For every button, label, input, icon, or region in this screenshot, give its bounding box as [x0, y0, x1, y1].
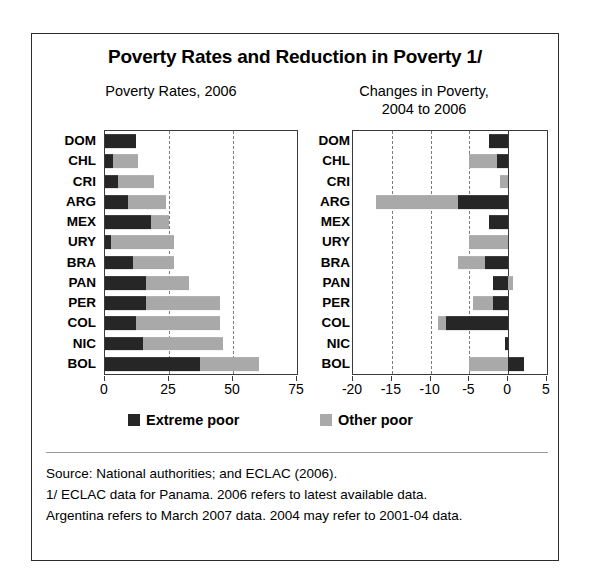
bar-segment-other-poor	[376, 195, 457, 209]
row-tick	[352, 334, 353, 335]
x-tick-label: -15	[381, 381, 401, 397]
category-label: NIC	[296, 335, 350, 350]
category-label: CHL	[296, 153, 350, 168]
legend-item-other-poor: Other poor	[320, 412, 413, 428]
row-tick	[352, 131, 353, 132]
x-tick-label: 0	[100, 381, 108, 397]
category-label: URY	[42, 234, 96, 249]
bar-segment-other-poor	[136, 316, 220, 330]
bar-segment-extreme-poor	[105, 215, 151, 229]
figure-frame: Poverty Rates and Reduction in Poverty 1…	[31, 33, 559, 561]
row-tick	[104, 192, 105, 193]
bar-segment-other-poor	[200, 357, 259, 371]
category-label: DOM	[42, 133, 96, 148]
category-label: BRA	[296, 254, 350, 269]
legend-swatch-extreme-poor	[128, 414, 140, 426]
bar-segment-extreme-poor	[458, 195, 508, 209]
category-label: MEX	[296, 214, 350, 229]
bar-segment-other-poor	[469, 357, 508, 371]
bar-segment-extreme-poor	[105, 175, 118, 189]
category-label: ARG	[296, 193, 350, 208]
category-label: BRA	[42, 254, 96, 269]
row-tick	[104, 151, 105, 152]
right-x-axis: -20-15-10-505	[352, 376, 548, 398]
legend-swatch-other-poor	[320, 414, 332, 426]
row-tick	[104, 212, 105, 213]
bar-segment-other-poor	[469, 154, 496, 168]
row-tick	[104, 253, 105, 254]
row-tick	[352, 313, 353, 314]
right-plot-area	[352, 130, 548, 375]
right-panel-subtitle: Changes in Poverty, 2004 to 2006	[300, 82, 548, 118]
bar-segment-other-poor	[143, 337, 222, 351]
legend-label-extreme-poor: Extreme poor	[146, 412, 239, 428]
right-panel-subtitle-line2: 2004 to 2006	[300, 100, 548, 118]
bar-segment-extreme-poor	[497, 154, 509, 168]
bar-segment-other-poor	[146, 296, 220, 310]
row-tick	[104, 131, 105, 132]
bar-segment-extreme-poor	[105, 337, 143, 351]
changes-in-poverty-chart: DOMCHLCRIARGMEXURYBRAPANPERCOLNICBOL -20…	[300, 130, 550, 400]
bar-segment-extreme-poor	[485, 256, 508, 270]
bar-segment-extreme-poor	[105, 154, 113, 168]
bar-segment-extreme-poor	[489, 215, 508, 229]
bar-segment-other-poor	[146, 276, 190, 290]
bar-segment-extreme-poor	[105, 195, 128, 209]
x-tick-label: 0	[503, 381, 511, 397]
category-label: PER	[42, 295, 96, 310]
footnote-line: Argentina refers to March 2007 data. 200…	[46, 505, 548, 526]
category-label: ARG	[42, 193, 96, 208]
category-label: MEX	[42, 214, 96, 229]
bar-segment-extreme-poor	[508, 357, 524, 371]
bar-segment-extreme-poor	[105, 134, 136, 148]
category-label: BOL	[42, 355, 96, 370]
bar-segment-other-poor	[469, 235, 508, 249]
bar-segment-extreme-poor	[105, 256, 133, 270]
bar-segment-other-poor	[151, 215, 169, 229]
category-label: URY	[296, 234, 350, 249]
gridline	[431, 131, 432, 374]
bar-segment-other-poor	[128, 195, 166, 209]
category-label: CRI	[296, 173, 350, 188]
bar-segment-extreme-poor	[493, 296, 509, 310]
chart-legend: Extreme poor Other poor	[32, 412, 558, 436]
legend-label-other-poor: Other poor	[338, 412, 413, 428]
legend-item-extreme-poor: Extreme poor	[128, 412, 239, 428]
x-tick-label: 25	[160, 381, 176, 397]
bar-segment-other-poor	[438, 316, 446, 330]
row-tick	[104, 232, 105, 233]
row-tick	[352, 232, 353, 233]
row-tick	[104, 313, 105, 314]
bar-segment-other-poor	[113, 154, 138, 168]
x-tick-label: -10	[419, 381, 439, 397]
category-label: COL	[42, 315, 96, 330]
bar-segment-extreme-poor	[489, 134, 508, 148]
bar-segment-other-poor	[458, 256, 485, 270]
right-panel-subtitle-line1: Changes in Poverty,	[300, 82, 548, 100]
row-tick	[352, 192, 353, 193]
x-tick-label: 5	[542, 381, 550, 397]
category-label: CRI	[42, 173, 96, 188]
bar-segment-other-poor	[111, 235, 174, 249]
row-tick	[352, 273, 353, 274]
row-tick	[352, 172, 353, 173]
category-label: NIC	[42, 335, 96, 350]
footnote-line: 1/ ECLAC data for Panama. 2006 refers to…	[46, 484, 548, 505]
bar-segment-other-poor	[473, 296, 492, 310]
bar-segment-extreme-poor	[105, 296, 146, 310]
bar-segment-other-poor	[508, 276, 513, 290]
left-panel-subtitle: Poverty Rates, 2006	[46, 82, 296, 100]
category-label: PAN	[296, 274, 350, 289]
row-tick	[104, 273, 105, 274]
row-tick	[104, 172, 105, 173]
figure-title: Poverty Rates and Reduction in Poverty 1…	[32, 46, 558, 68]
row-tick	[104, 354, 105, 355]
bar-segment-extreme-poor	[446, 316, 508, 330]
category-label: DOM	[296, 133, 350, 148]
category-label: CHL	[42, 153, 96, 168]
x-tick-label: -20	[342, 381, 362, 397]
bar-segment-other-poor	[500, 175, 509, 189]
left-category-labels: DOMCHLCRIARGMEXURYBRAPANPERCOLNICBOL	[46, 130, 100, 375]
footnote-line: Source: National authorities; and ECLAC …	[46, 463, 548, 484]
category-label: BOL	[296, 355, 350, 370]
